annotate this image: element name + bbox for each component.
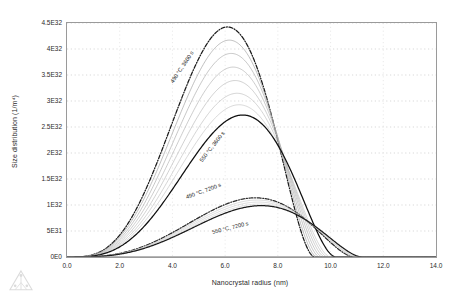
curves-svg <box>67 23 436 257</box>
curve-2 <box>67 40 436 257</box>
curve-4 <box>67 67 436 257</box>
curve-12 <box>67 204 436 257</box>
y-tick-label: 1.5E32 <box>6 175 62 182</box>
y-tick-label: 3.5E32 <box>6 71 62 78</box>
y-tick-label: 3E32 <box>6 97 62 104</box>
x-tick-label: 8.0 <box>258 262 298 269</box>
x-tick-label: 10.0 <box>311 262 351 269</box>
triangle-logo-icon <box>8 268 34 292</box>
x-tick-label: 12.0 <box>363 262 403 269</box>
y-tick-label: 0E0 <box>6 253 62 260</box>
y-tick-label: 5E31 <box>6 227 62 234</box>
curve-3 <box>67 53 436 257</box>
x-tick-label: 2.0 <box>100 262 140 269</box>
x-axis-title: Nanocrystal radius (nm) <box>60 279 440 286</box>
y-tick-label: 2E32 <box>6 149 62 156</box>
plot-area <box>66 22 437 258</box>
chart-figure: Size distribution (1/m⁴) Nanocrystal rad… <box>0 0 463 298</box>
x-tick-label: 6.0 <box>205 262 245 269</box>
curve-11 <box>67 202 436 257</box>
x-tick-label: 4.0 <box>152 262 192 269</box>
curve-5 <box>67 81 436 257</box>
y-tick-label: 2.5E32 <box>6 123 62 130</box>
x-tick-label: 0.0 <box>47 262 87 269</box>
y-tick-label: 4.5E32 <box>6 19 62 26</box>
y-tick-label: 1E32 <box>6 201 62 208</box>
y-axis-title: Size distribution (1/m⁴) <box>11 72 18 192</box>
y-tick-label: 4E32 <box>6 45 62 52</box>
curve-10 <box>67 200 436 257</box>
x-tick-label: 14.0 <box>416 262 456 269</box>
